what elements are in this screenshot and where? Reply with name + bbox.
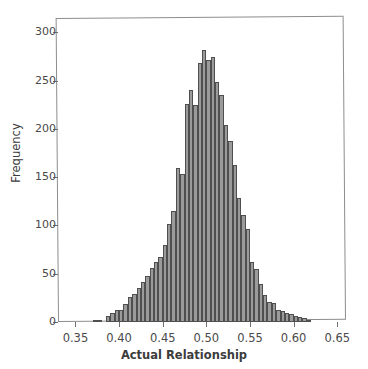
x-axis-tick-label: 0.60 <box>281 331 307 345</box>
histogram-bar <box>97 320 101 322</box>
histogram-bars <box>58 18 346 322</box>
x-axis-tick-mark <box>119 322 120 327</box>
y-axis-label: Frequency <box>9 83 23 223</box>
x-axis-tick-mark <box>163 322 164 327</box>
x-axis-tick-mark <box>206 322 207 327</box>
y-axis-tick-label: 100 <box>35 219 56 230</box>
x-axis-label: Actual Relationship <box>0 348 368 362</box>
x-axis-tick-label: 0.35 <box>63 331 89 345</box>
y-axis-tick-label: 50 <box>42 268 56 279</box>
y-axis-tick-label: 300 <box>35 26 56 37</box>
histogram-bar <box>307 320 311 322</box>
y-axis-tick-label: 250 <box>35 75 56 86</box>
x-axis-tick-label: 0.45 <box>150 331 176 345</box>
x-axis-tick-label: 0.40 <box>106 331 132 345</box>
x-axis-tick-label: 0.65 <box>324 331 350 345</box>
histogram-figure: 050100150200250300 0.350.400.450.500.550… <box>0 0 368 369</box>
x-axis-tick-mark <box>337 322 338 327</box>
x-axis-tick-mark <box>294 322 295 327</box>
y-axis-tick-label: 150 <box>35 171 56 182</box>
x-axis-tick-mark <box>250 322 251 327</box>
x-axis-tick-mark <box>75 322 76 327</box>
y-axis-tick-label: 0 <box>49 316 56 327</box>
x-axis-tick-label: 0.50 <box>194 331 220 345</box>
x-axis-tick-label: 0.55 <box>237 331 263 345</box>
y-axis-tick-label: 200 <box>35 123 56 134</box>
